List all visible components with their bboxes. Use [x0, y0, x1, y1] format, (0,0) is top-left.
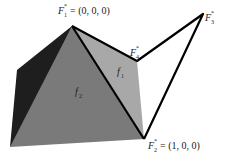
svg-text:*: * [136, 45, 139, 51]
svg-text:*: * [154, 138, 157, 144]
label-F3: F 3 * [204, 10, 214, 25]
svg-text:= (1, 0, 0): = (1, 0, 0) [160, 140, 200, 152]
svg-text:2: 2 [79, 93, 82, 99]
label-F2: F 2 * = (1, 0, 0) [147, 138, 200, 153]
svg-text:1: 1 [64, 12, 67, 18]
label-F4: F 4 * [129, 45, 139, 60]
svg-text:2: 2 [154, 147, 157, 153]
svg-text:1: 1 [121, 73, 124, 79]
svg-text:*: * [64, 3, 67, 9]
polyhedron-diagram: F 1 * = (0, 0, 0) F 3 * F 4 * F 2 * = (1… [0, 0, 226, 155]
label-F1: F 1 * = (0, 0, 0) [57, 3, 110, 18]
svg-text:= (0, 0, 0): = (0, 0, 0) [70, 5, 110, 17]
svg-text:3: 3 [211, 19, 214, 25]
svg-text:4: 4 [136, 54, 139, 60]
svg-text:*: * [211, 10, 214, 16]
